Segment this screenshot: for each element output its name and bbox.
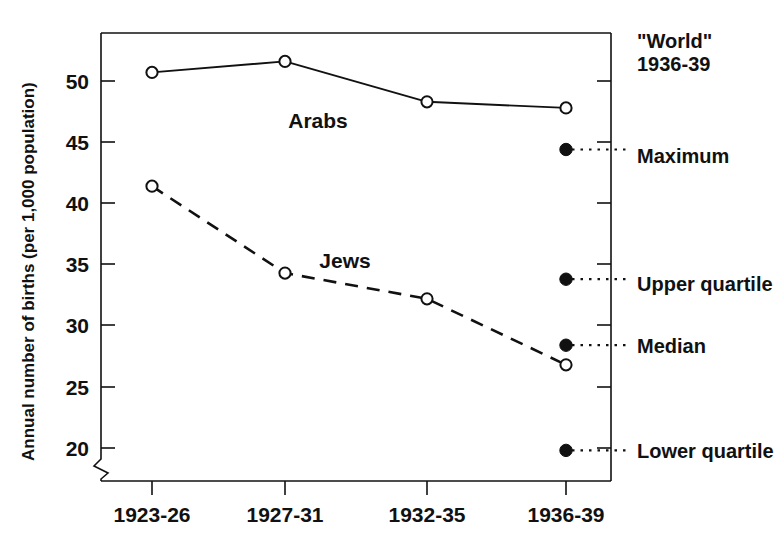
annot-label-upper-quartile: Upper quartile: [637, 273, 773, 295]
data-point-jews-2: [421, 293, 432, 304]
x-tick-0: 1923-26: [113, 481, 190, 526]
annot-label-maximum: Maximum: [637, 145, 729, 167]
reference-point-2: [560, 339, 572, 351]
y-tick-label: 50: [66, 70, 89, 93]
annot-label-lower-quartile: Lower quartile: [637, 440, 774, 462]
series-label-jews: Jews: [319, 249, 370, 272]
y-tick-label: 35: [66, 253, 90, 276]
y-tick-40: 40: [66, 192, 611, 215]
y-axis-title: Annual number of births (per 1,000 popul…: [19, 82, 38, 461]
x-tick-1: 1927-31: [246, 481, 323, 526]
chart-canvas: 50 45 40 35 30: [0, 0, 781, 552]
y-tick-45: 45: [66, 131, 611, 154]
reference-point-1: [560, 273, 572, 285]
reference-point-3: [560, 444, 572, 456]
series-label-arabs: Arabs: [288, 109, 348, 132]
world-reference-points: [560, 143, 630, 456]
y-tick-label: 40: [66, 192, 89, 215]
y-tick-25: 25: [66, 376, 611, 399]
data-point-jews-0: [146, 181, 157, 192]
chart-figure: 50 45 40 35 30: [0, 0, 781, 552]
data-point-arabs-1: [279, 56, 290, 67]
x-tick-3: 1936-39: [527, 481, 604, 526]
x-tick-label: 1923-26: [113, 503, 190, 526]
y-tick-20: 20: [66, 437, 611, 460]
x-axis-ticks: 1923-26 1927-31 1932-35 1936-39: [113, 481, 604, 526]
annot-label-median: Median: [637, 335, 706, 357]
y-axis-line-with-break: [94, 33, 108, 481]
data-point-arabs-2: [421, 96, 432, 107]
y-tick-label: 45: [66, 131, 90, 154]
x-tick-label: 1927-31: [246, 503, 323, 526]
x-tick-label: 1932-35: [388, 503, 465, 526]
y-tick-label: 30: [66, 314, 89, 337]
reference-point-0: [560, 143, 572, 155]
data-point-jews-1: [279, 268, 290, 279]
series-arabs-line: [152, 61, 566, 108]
series-arabs: [146, 56, 571, 114]
y-tick-30: 30: [66, 314, 611, 337]
y-tick-label: 20: [66, 437, 89, 460]
series-jews-markers: [146, 181, 571, 371]
series-jews: [146, 181, 571, 371]
y-tick-label: 25: [66, 376, 90, 399]
world-reference-labels: Maximum Upper quartile Median Lower quar…: [637, 145, 774, 462]
x-tick-2: 1932-35: [388, 481, 465, 526]
series-jews-line: [152, 186, 566, 365]
data-point-arabs-3: [560, 102, 571, 113]
data-point-jews-3: [560, 359, 571, 370]
world-header-line1: "World": [637, 30, 712, 52]
world-header-line2: 1936-39: [637, 53, 710, 75]
world-reference-header: "World" 1936-39: [637, 30, 712, 75]
data-point-arabs-0: [146, 67, 157, 78]
x-tick-label: 1936-39: [527, 503, 604, 526]
